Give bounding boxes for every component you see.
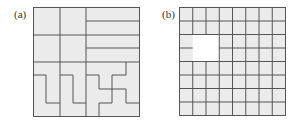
missing-block	[193, 35, 220, 62]
panel-a-diagram	[34, 8, 140, 117]
panel-b-grid	[180, 8, 286, 116]
figure-canvas	[0, 0, 299, 127]
